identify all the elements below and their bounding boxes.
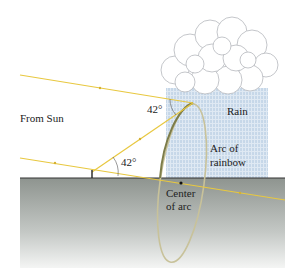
center-label-line1: Center [166, 187, 196, 199]
cloud-icon [161, 17, 278, 94]
angle-top-label: 42° [147, 103, 162, 115]
ground [20, 178, 285, 268]
center-of-arc-dot [179, 181, 182, 184]
arc-label-line1: Arc of [210, 142, 239, 154]
from-sun-label: From Sun [20, 112, 64, 124]
center-label-line2: of arc [166, 200, 191, 212]
rainbow-diagram: From Sun 42° 42° Rain Arc of rainbow Cen… [0, 0, 299, 279]
arc-label-line2: rainbow [210, 156, 246, 168]
angle-bottom-label: 42° [121, 156, 136, 168]
rain-label: Rain [227, 105, 248, 117]
